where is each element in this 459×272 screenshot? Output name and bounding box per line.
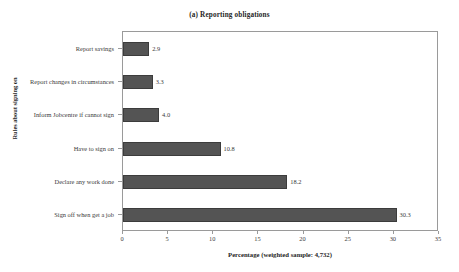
x-axis-tick xyxy=(167,231,168,234)
x-axis-tick-label: 35 xyxy=(435,235,441,242)
bar xyxy=(123,208,397,222)
x-axis-tick xyxy=(257,231,258,234)
x-axis-tick xyxy=(438,231,439,234)
bar xyxy=(123,75,153,89)
chart-title: (a) Reporting obligations xyxy=(0,11,459,19)
x-axis-tick-label: 20 xyxy=(299,235,305,242)
y-category-label: Inform Jobcentre if cannot sign xyxy=(34,111,114,118)
x-axis-tick-label: 15 xyxy=(254,235,260,242)
x-axis-title: Percentage (weighted sample: 4,732) xyxy=(122,251,438,258)
y-category-label: Sign off when get a job xyxy=(54,211,114,218)
x-axis-tick xyxy=(303,231,304,234)
x-axis-tick-label: 25 xyxy=(345,235,351,242)
chart-figure: (a) Reporting obligations Rules about si… xyxy=(0,0,459,272)
bars-layer xyxy=(123,32,437,230)
x-axis-tick-label: 30 xyxy=(390,235,396,242)
x-axis-ticks: 05101520253035 xyxy=(122,231,438,251)
x-axis-tick xyxy=(393,231,394,234)
x-axis-tick-label: 5 xyxy=(166,235,169,242)
x-axis-tick-label: 0 xyxy=(120,235,123,242)
bar xyxy=(123,108,159,122)
y-axis-category-labels: Sign off when get a jobDeclare any work … xyxy=(0,31,118,231)
plot-area xyxy=(122,31,438,231)
y-category-label: Report changes in circumstances xyxy=(30,78,114,85)
y-category-label: Report savings xyxy=(76,44,114,51)
bar xyxy=(123,42,149,56)
x-axis-tick xyxy=(212,231,213,234)
x-axis-tick-label: 10 xyxy=(209,235,215,242)
x-axis-tick xyxy=(122,231,123,234)
y-category-label: Have to sign on xyxy=(74,144,114,151)
x-axis-tick xyxy=(348,231,349,234)
bar xyxy=(123,142,221,156)
y-category-label: Declare any work done xyxy=(55,178,114,185)
bar xyxy=(123,175,287,189)
